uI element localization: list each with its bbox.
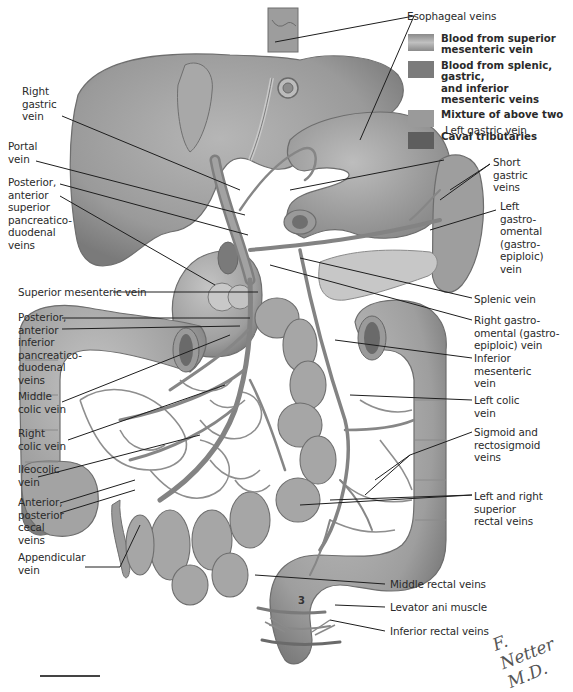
- pancreas: [319, 250, 438, 300]
- legend-swatch: [408, 34, 434, 51]
- label-right-gastroomental-vein: Right gastro- omental (gastro- epiploic)…: [474, 314, 559, 352]
- label-portal-vein: Portal vein: [8, 140, 37, 165]
- label-left-colic-vein: Left colic vein: [474, 394, 519, 419]
- legend-label: Mixture of above two: [441, 109, 563, 120]
- spleen: [432, 155, 483, 292]
- legend-item-superior-mesenteric: Blood from superior mesenteric vein: [408, 33, 573, 56]
- label-middle-rectal-veins: Middle rectal veins: [390, 578, 486, 591]
- label-left-gastric-vein: Left gastric vein: [445, 124, 527, 137]
- label-post-ant-sup-pancreaticoduodenal: Posterior, anterior superior pancreatico…: [8, 176, 72, 252]
- label-inferior-rectal-veins: Inferior rectal veins: [390, 625, 489, 638]
- label-levator-ani-muscle: Levator ani muscle: [390, 601, 487, 614]
- legend-item-splenic-gastric-inferior: Blood from splenic, gastric, and inferio…: [408, 60, 573, 106]
- label-post-ant-inf-pancreaticoduodenal: Posterior, anterior inferior pancreatico…: [18, 311, 82, 387]
- esophagus: [268, 8, 298, 52]
- legend-swatch: [408, 132, 434, 149]
- label-superior-mesenteric-vein: Superior mesenteric vein: [18, 286, 146, 299]
- legend-label: Blood from superior mesenteric vein: [441, 33, 556, 56]
- legend-label: Blood from splenic, gastric, and inferio…: [441, 60, 573, 106]
- label-splenic-vein: Splenic vein: [474, 293, 536, 306]
- label-right-gastric-vein: Right gastric vein: [22, 85, 57, 123]
- label-appendicular-vein: Appendicular vein: [18, 551, 85, 576]
- label-sigmoid-rectosigmoid-veins: Sigmoid and rectosigmoid veins: [474, 426, 540, 464]
- plate-number: 3: [298, 595, 305, 606]
- bottom-rule: [40, 675, 100, 677]
- label-left-gastroomental-vein: Left gastro- omental (gastro- epiploic) …: [500, 200, 543, 276]
- label-middle-colic-vein: Middle colic vein: [18, 390, 66, 415]
- label-short-gastric-veins: Short gastric veins: [493, 156, 528, 194]
- label-superior-rectal-veins: Left and right superior rectal veins: [474, 490, 543, 528]
- legend-swatch: [408, 61, 434, 78]
- label-right-colic-vein: Right colic vein: [18, 427, 66, 452]
- label-inferior-mesenteric-vein: Inferior mesenteric vein: [474, 352, 531, 390]
- label-cecal-veins: Anterior, posterior cecal veins: [18, 496, 64, 546]
- legend-swatch: [408, 110, 434, 127]
- label-esophageal-veins: Esophageal veins: [407, 10, 496, 23]
- label-ileocolic-vein: Ileocolic vein: [18, 463, 59, 488]
